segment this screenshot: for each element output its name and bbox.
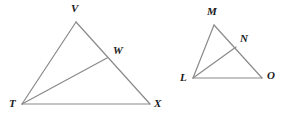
vertex-label-L: L <box>180 72 187 83</box>
triangle-LMO <box>193 25 262 78</box>
vertex-label-X: X <box>154 98 161 109</box>
geometry-canvas <box>0 0 290 123</box>
vertex-label-N: N <box>240 33 248 44</box>
vertex-label-W: W <box>113 45 123 56</box>
vertex-label-T: T <box>9 98 16 109</box>
segment-TV <box>22 22 76 104</box>
triangle-TVX <box>22 22 150 104</box>
segment-VX <box>76 22 150 104</box>
segment-MO <box>214 25 262 78</box>
geometry-diagram: TVXWLMON <box>0 0 290 123</box>
vertex-label-M: M <box>207 6 217 17</box>
vertex-label-O: O <box>267 70 275 81</box>
vertex-label-V: V <box>71 3 78 14</box>
segment-TW <box>22 58 107 104</box>
